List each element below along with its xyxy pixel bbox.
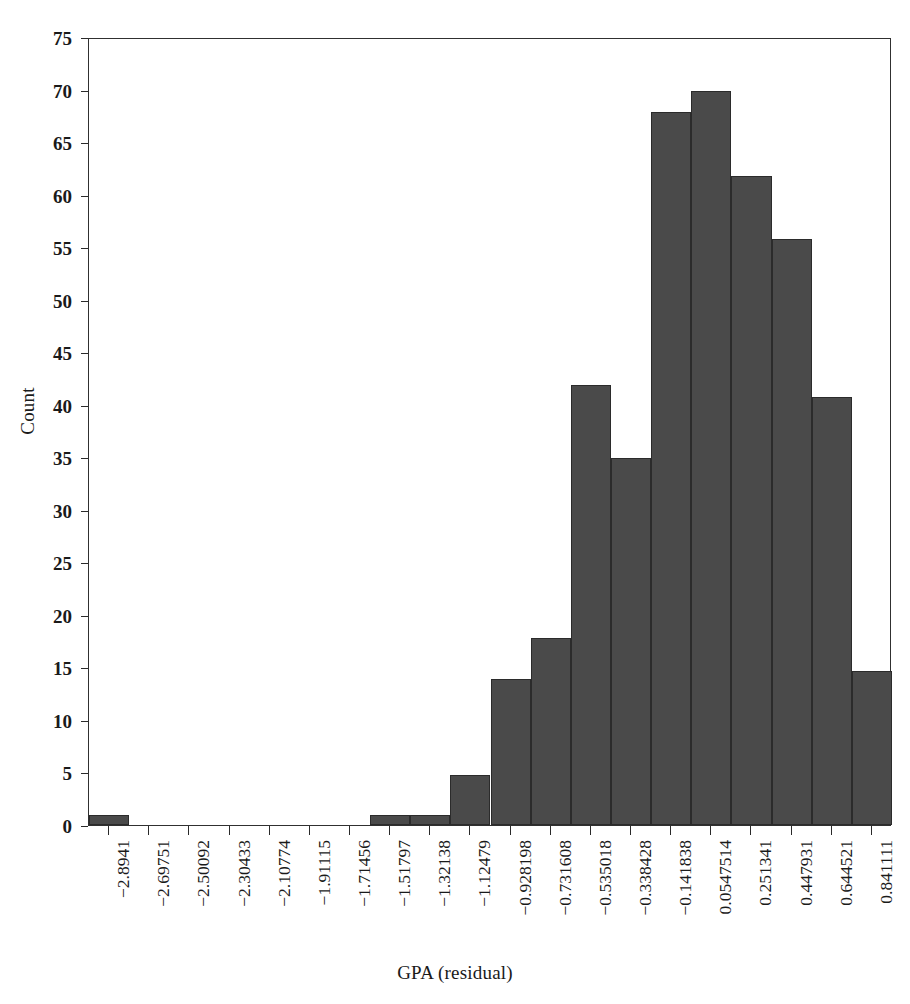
x-axis-tick-label: −0.338428 <box>637 840 655 916</box>
y-axis-tick-label: 25 <box>4 554 72 573</box>
x-axis-tick-mark <box>791 826 792 835</box>
y-axis-tick-label: 5 <box>4 764 72 783</box>
x-axis-tick-label: −0.535018 <box>597 840 615 916</box>
x-axis-tick-mark <box>148 826 149 835</box>
histogram-bar <box>370 815 410 826</box>
y-axis-tick-label: 10 <box>4 711 72 730</box>
x-axis-tick-mark <box>831 826 832 835</box>
histogram-figure: Count 051015202530354045505560657075 −2.… <box>0 0 910 1004</box>
x-axis-tick-label: −0.928198 <box>517 840 535 916</box>
x-axis-tick-mark <box>229 826 230 835</box>
y-axis-tick-label: 20 <box>4 606 72 625</box>
histogram-bar <box>89 815 129 826</box>
x-axis-tick-mark <box>630 826 631 835</box>
y-axis-tick-mark <box>81 248 88 249</box>
histogram-bar <box>611 458 651 825</box>
x-axis-tick-label: −2.10774 <box>276 840 294 907</box>
histogram-bar <box>491 679 531 825</box>
x-axis-tick-label: −0.141838 <box>677 840 695 916</box>
x-axis-tick-mark <box>188 826 189 835</box>
x-axis-tick-mark <box>389 826 390 835</box>
y-axis-tick-label: 50 <box>4 291 72 310</box>
x-axis-tick-mark <box>510 826 511 835</box>
y-axis-tick-label: 35 <box>4 449 72 468</box>
histogram-bar <box>571 385 611 825</box>
y-axis-tick-label: 55 <box>4 239 72 258</box>
histogram-bar <box>450 775 490 825</box>
y-axis-tick-mark <box>81 301 88 302</box>
y-axis-tick-mark <box>81 511 88 512</box>
x-axis-tick-label: −1.91115 <box>316 840 334 905</box>
y-axis-tick-label: 70 <box>4 81 72 100</box>
bar-series <box>89 39 890 825</box>
x-axis-tick-label: 0.251341 <box>757 840 775 906</box>
y-axis-tick-label: 30 <box>4 501 72 520</box>
y-axis-tick-mark <box>81 143 88 144</box>
x-axis-tick-mark <box>871 826 872 835</box>
x-axis-tick-label: −2.50092 <box>195 840 213 907</box>
x-axis-tick-label: −1.12479 <box>476 840 494 907</box>
y-axis-tick-label: 40 <box>4 396 72 415</box>
y-axis-tick-mark <box>81 458 88 459</box>
x-axis-tick-label: −1.71456 <box>356 840 374 907</box>
histogram-bar <box>852 671 892 825</box>
x-axis-tick-mark <box>349 826 350 835</box>
x-axis-tick-label: 0.841111 <box>878 840 896 904</box>
x-axis-tick-mark <box>710 826 711 835</box>
histogram-bar <box>651 112 691 825</box>
x-axis-tick-label: 0.644521 <box>838 840 856 906</box>
y-axis-tick-mark <box>81 563 88 564</box>
x-axis-tick-label: −1.32138 <box>436 840 454 907</box>
x-axis-tick-mark <box>108 826 109 835</box>
y-axis-tick-mark <box>81 353 88 354</box>
y-axis-tick-label: 15 <box>4 659 72 678</box>
histogram-bar <box>531 638 571 825</box>
x-axis-tick-mark <box>670 826 671 835</box>
y-axis-tick-mark <box>81 616 88 617</box>
histogram-bar <box>772 239 812 825</box>
y-axis-tick-label: 75 <box>4 29 72 48</box>
y-axis-tick-label: 65 <box>4 134 72 153</box>
histogram-bar <box>812 397 852 825</box>
x-axis-tick-label: −0.731608 <box>557 840 575 916</box>
y-axis-tick-mark <box>81 773 88 774</box>
x-axis-tick-mark <box>429 826 430 835</box>
x-axis-tick-mark <box>750 826 751 835</box>
x-axis-tick-mark <box>590 826 591 835</box>
y-axis-tick-label: 45 <box>4 344 72 363</box>
x-axis-tick-label: −2.8941 <box>115 840 133 898</box>
x-axis-tick-label: 0.0547514 <box>717 840 735 914</box>
x-axis-tick-label: 0.447931 <box>798 840 816 906</box>
x-axis-tick-mark <box>469 826 470 835</box>
y-axis-tick-mark <box>81 721 88 722</box>
histogram-bar <box>410 815 450 826</box>
x-axis-tick-label: −1.51797 <box>396 840 414 907</box>
histogram-bar <box>731 176 771 825</box>
x-axis-tick-mark <box>269 826 270 835</box>
histogram-bar <box>691 91 731 825</box>
y-axis-tick-mark <box>81 91 88 92</box>
x-axis-tick-label: −2.30433 <box>236 840 254 907</box>
x-axis-tick-mark <box>550 826 551 835</box>
plot-area <box>88 38 891 826</box>
x-axis-tick-label: −2.69751 <box>155 840 173 907</box>
y-axis-tick-mark <box>81 196 88 197</box>
y-axis-tick-mark <box>81 38 88 39</box>
y-axis-tick-mark <box>81 668 88 669</box>
x-axis-tick-mark <box>309 826 310 835</box>
x-axis-title: GPA (residual) <box>0 962 910 984</box>
y-axis-tick-label: 60 <box>4 186 72 205</box>
y-axis-tick-mark <box>81 406 88 407</box>
